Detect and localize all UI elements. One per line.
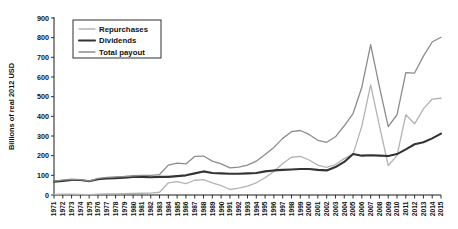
- x-tick-label: 1977: [103, 201, 110, 216]
- x-tick-label: 1991: [226, 201, 233, 216]
- x-tick-label: 1982: [147, 201, 154, 216]
- x-tick-label: 2001: [314, 201, 321, 216]
- x-tick-label: 1990: [218, 201, 225, 216]
- x-tick-label: 1989: [209, 201, 216, 216]
- x-tick-label: 2004: [341, 201, 348, 216]
- x-tick-label: 2006: [358, 201, 365, 216]
- x-tick-label: 1988: [200, 201, 207, 216]
- x-tick-label: 1971: [50, 201, 57, 216]
- x-tick-label: 2002: [323, 201, 330, 216]
- x-tick-label: 2013: [420, 201, 427, 216]
- legend-label-dividends: Dividends: [99, 36, 137, 45]
- x-tick-label: 1981: [138, 201, 145, 216]
- x-tick-label: 2015: [437, 201, 444, 216]
- x-tick-label: 2007: [367, 201, 374, 216]
- x-tick-label: 1994: [253, 201, 260, 216]
- series-line-total-payout: [54, 37, 441, 181]
- x-tick-label: 1984: [165, 201, 172, 216]
- y-tick-label: 300: [37, 132, 49, 141]
- x-tick-label: 1996: [270, 201, 277, 216]
- chart-canvas: 0100200300400500600700800900Billions of …: [0, 0, 458, 229]
- payout-chart-figure: 0100200300400500600700800900Billions of …: [0, 0, 458, 229]
- y-axis-title: Billions of real 2012 USD: [7, 62, 16, 150]
- y-tick-label: 800: [37, 33, 49, 42]
- x-tick-label: 2010: [393, 201, 400, 216]
- x-tick-label: 1998: [288, 201, 295, 216]
- y-tick-label: 600: [37, 73, 49, 82]
- x-tick-label: 2012: [411, 201, 418, 216]
- legend-label-total-payout: Total payout: [99, 48, 145, 57]
- y-tick-label: 500: [37, 92, 49, 101]
- x-tick-label: 1993: [244, 201, 251, 216]
- x-tick-label: 2009: [385, 201, 392, 216]
- x-tick-label: 1995: [261, 201, 268, 216]
- x-tick-label: 1986: [182, 201, 189, 216]
- x-tick-label: 1987: [191, 201, 198, 216]
- x-tick-label: 2014: [429, 201, 436, 216]
- y-tick-label: 0: [45, 191, 49, 200]
- y-tick-label: 900: [37, 14, 49, 23]
- x-tick-label: 1974: [77, 201, 84, 216]
- x-tick-label: 2008: [376, 201, 383, 216]
- x-tick-label: 1985: [174, 201, 181, 216]
- x-tick-label: 1980: [130, 201, 137, 216]
- y-tick-label: 200: [37, 151, 49, 160]
- y-tick-label: 700: [37, 53, 49, 62]
- x-tick-label: 1972: [59, 201, 66, 216]
- x-tick-label: 1983: [156, 201, 163, 216]
- x-tick-label: 1992: [235, 201, 242, 216]
- x-tick-label: 2003: [332, 201, 339, 216]
- x-tick-label: 1973: [68, 201, 75, 216]
- x-tick-label: 2005: [349, 201, 356, 216]
- y-tick-label: 400: [37, 112, 49, 121]
- x-tick-label: 1979: [121, 201, 128, 216]
- x-tick-label: 1999: [297, 201, 304, 216]
- x-tick-label: 1976: [94, 201, 101, 216]
- x-tick-label: 2000: [305, 201, 312, 216]
- x-tick-label: 1978: [112, 201, 119, 216]
- x-tick-label: 1975: [86, 201, 93, 216]
- x-tick-label: 1997: [279, 201, 286, 216]
- x-tick-label: 2011: [402, 201, 409, 216]
- y-tick-label: 100: [37, 171, 49, 180]
- legend-label-repurchases: Repurchases: [99, 25, 149, 34]
